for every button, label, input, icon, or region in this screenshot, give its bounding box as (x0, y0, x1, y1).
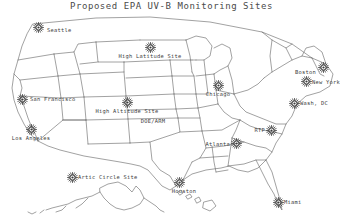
site-label-houston: Houston (172, 189, 196, 194)
site-label-arctic-circle-site: Artic Circle Site (78, 175, 137, 180)
sunburst-icon (145, 42, 156, 53)
sunburst-icon (318, 62, 329, 73)
sunburst-icon (213, 80, 224, 91)
sunburst-icon (289, 98, 300, 109)
site-label-san-francisco: San Francisco (30, 97, 75, 102)
site-label-los-angeles: Los Angeles (12, 136, 50, 141)
site-label-high-altitude-site: High Altitude Site (96, 109, 159, 114)
site-label-seattle: Seattle (47, 28, 71, 33)
sunburst-icon (33, 22, 44, 33)
map-figure: Proposed EPA UV-B Monitoring Sites (0, 0, 343, 218)
annotation-doe-arm: DOE/ARM (141, 118, 165, 124)
site-label-chicago: Chicago (206, 92, 230, 97)
site-label-miami: Miami (284, 200, 301, 205)
sunburst-icon (17, 94, 28, 105)
sunburst-icon (174, 177, 185, 188)
site-label-new-york: New York (312, 80, 340, 85)
site-label-rtp: RTP (255, 128, 266, 133)
sunburst-icon (273, 197, 284, 208)
sunburst-icon (67, 172, 78, 183)
sunburst-icon (301, 76, 312, 87)
sunburst-icon (26, 124, 37, 135)
sunburst-icon (266, 125, 277, 136)
site-label-high-latitude-site: High Latitude Site (119, 54, 182, 59)
site-label-washington-dc: Wash, DC (300, 101, 328, 106)
site-label-atlanta: Atlanta (206, 142, 230, 147)
sunburst-icon (231, 138, 242, 149)
sunburst-icon (122, 97, 133, 108)
